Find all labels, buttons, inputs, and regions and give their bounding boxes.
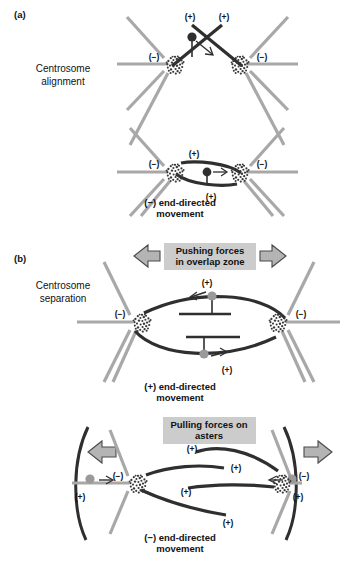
right-aster-astral-microtubules-3 [282, 262, 340, 382]
caption-b-bottom-line1: (−) end-directed [144, 532, 216, 543]
panel-b: (b) Centrosome separation Pushing forces… [14, 243, 340, 554]
polarity-label-plus-cortex-left: (+) [75, 492, 86, 502]
force-arrow-right-2 [304, 441, 332, 463]
subpanel-a-crossed-microtubules: (+) (+) (−) (−) [117, 12, 298, 145]
polarity-label-minus-left: (−) [149, 52, 160, 62]
right-aster-astral-microtubules-4 [272, 430, 302, 534]
interpolar-microtubules-bottom [141, 449, 278, 515]
overlap-zone-microtubules [135, 297, 285, 354]
polarity-label-plus-top-b: (+) [202, 278, 213, 288]
panel-a-side-label-line1: Centrosome [36, 63, 91, 74]
polarity-label-plus-left: (+) [185, 12, 196, 22]
left-centrosome-2 [166, 163, 185, 182]
pushing-forces-label-line2: in overlap zone [175, 256, 244, 267]
caption-b-top-line2: movement [156, 392, 204, 403]
caption-b-top-line1: (+) end-directed [144, 381, 216, 392]
left-aster-astral-microtubules [117, 17, 168, 145]
motor-protein-dark-2 [203, 168, 212, 184]
panel-b-letter: (b) [14, 253, 26, 264]
force-arrow-right [260, 245, 286, 267]
polarity-label-plus-b2-3: (+) [181, 487, 192, 497]
force-arrow-left [134, 245, 160, 267]
motor-protein-gray-upper [190, 291, 217, 313]
polarity-label-plus-bottom-b: (+) [222, 365, 233, 375]
caption-a-line1: (−) end-directed [144, 197, 216, 208]
panel-b-side-label-line2: separation [40, 293, 87, 304]
polarity-label-plus-b2-2: (+) [231, 463, 242, 473]
polarity-label-minus-right-b: (−) [296, 309, 307, 319]
polarity-label-minus-right: (−) [257, 52, 268, 62]
polarity-label-minus-b2-right: (−) [299, 471, 310, 481]
polarity-label-minus-left-b: (−) [115, 309, 126, 319]
pushing-forces-label-line1: Pushing forces [176, 245, 245, 256]
pulling-forces-label-line1: Pulling forces on [170, 419, 247, 430]
polarity-label-plus-b2-1: (+) [187, 444, 198, 454]
polarity-label-plus-top: (+) [189, 149, 200, 159]
caption-a-line2: movement [156, 208, 204, 219]
subpanel-b-pushing-forces: Pushing forces in overlap zone [77, 243, 340, 403]
diagram-canvas: (a) Centrosome alignment [0, 0, 360, 566]
subpanel-b-pulling-forces: Pulling forces on asters [72, 417, 332, 554]
motor-direction-arrow-2 [213, 168, 227, 176]
figure-root: (a) Centrosome alignment [0, 0, 360, 566]
caption-b-bottom-line2: movement [156, 543, 204, 554]
left-centrosome-3 [133, 313, 152, 332]
polarity-label-minus-b2-left: (−) [113, 471, 124, 481]
panel-a: (a) Centrosome alignment [14, 9, 298, 219]
polarity-label-minus-right-2: (−) [257, 159, 268, 169]
crossing-interpolar-microtubules [172, 25, 242, 66]
polarity-label-plus-b2-4: (+) [223, 518, 234, 528]
right-aster-astral-microtubules-2 [244, 128, 298, 216]
force-arrow-left-2 [88, 441, 116, 463]
polarity-label-minus-left-2: (−) [149, 159, 160, 169]
subpanel-a-antiparallel-overlap: (+) (+) (−) (−) (−) end-directed movemen… [117, 128, 298, 219]
pulling-forces-label-line2: asters [195, 430, 223, 441]
motor-direction-arrow [196, 41, 213, 55]
right-aster-astral-microtubules [246, 17, 298, 145]
panel-a-letter: (a) [14, 9, 26, 20]
motor-protein-gray-lower [199, 338, 227, 359]
polarity-label-plus-right: (+) [219, 12, 230, 22]
polarity-label-plus-cortex-right: (+) [293, 492, 304, 502]
panel-a-side-label-line2: alignment [41, 76, 85, 87]
panel-b-side-label-line1: Centrosome [36, 280, 91, 291]
